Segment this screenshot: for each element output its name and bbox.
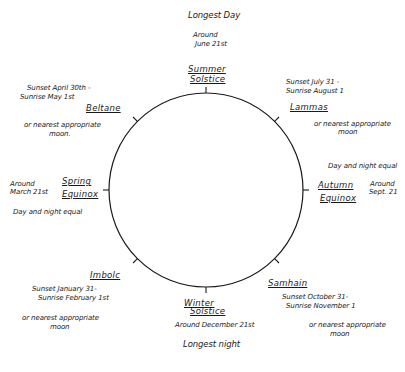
summer-note-around: Around xyxy=(193,31,218,39)
winter-note-1: Around December 21st xyxy=(175,321,254,329)
lammas-note-3: or nearest appropriate xyxy=(314,120,391,128)
beltane-note-3: or nearest appropriate xyxy=(24,121,101,129)
summer-note-longest-day: Longest Day xyxy=(188,10,240,20)
autumn-note-2: Around xyxy=(370,180,395,188)
autumn-note-1: Day and night equal xyxy=(328,162,397,170)
beltane-note-1: Sunset April 30th - xyxy=(27,84,90,92)
spring-note-2: March 21st xyxy=(10,188,48,196)
spring-note-3: Day and night equal xyxy=(13,208,82,216)
samhain-note-1: Sunset October 31- xyxy=(282,293,348,301)
summer-solstice-title-2: Solstice xyxy=(190,74,225,84)
autumn-equinox-title-2: Equinox xyxy=(320,193,356,203)
autumn-equinox-title-1: Autumn xyxy=(318,180,353,190)
beltane-note-4: moon. xyxy=(49,130,71,138)
imbolc-title: Imbolc xyxy=(90,270,120,280)
imbolc-note-4: moon xyxy=(50,323,69,331)
summer-note-date: June 21st xyxy=(195,40,227,48)
autumn-note-3: Sept. 21 xyxy=(369,188,398,196)
spring-equinox-title-2: Equinox xyxy=(62,189,98,199)
beltane-title: Beltane xyxy=(86,103,121,113)
imbolc-note-3: or nearest appropriate xyxy=(22,314,99,322)
imbolc-note-2: Sunrise February 1st xyxy=(38,294,109,302)
spring-note-1: Around xyxy=(10,180,35,188)
spring-equinox-title-1: Spring xyxy=(62,176,91,186)
lammas-note-2: Sunrise August 1 xyxy=(286,87,344,95)
beltane-note-2: Sunrise May 1st xyxy=(20,93,74,101)
samhain-title: Samhain xyxy=(268,278,307,288)
samhain-note-4: moon xyxy=(330,330,349,338)
summer-solstice-title-1: Summer xyxy=(188,64,226,74)
samhain-note-2: Sunrise November 1 xyxy=(286,302,356,310)
lammas-note-1: Sunset July 31 - xyxy=(286,78,339,86)
lammas-title: Lammas xyxy=(290,102,328,112)
tick-marks xyxy=(103,87,309,293)
lammas-note-4: moon xyxy=(338,128,357,136)
imbolc-note-1: Sunset January 31- xyxy=(32,285,97,293)
winter-solstice-title-2: Solstice xyxy=(190,306,225,316)
winter-note-2: Longest night xyxy=(183,339,240,349)
samhain-note-3: or nearest appropriate xyxy=(309,321,386,329)
